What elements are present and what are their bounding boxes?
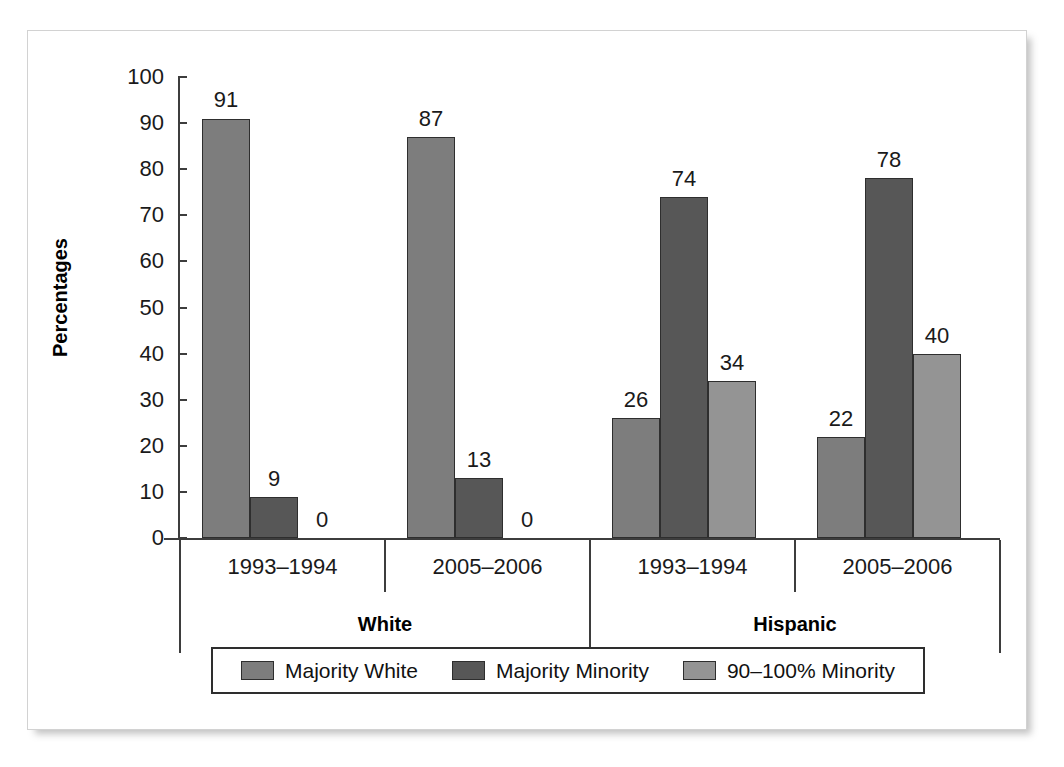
bar-value-label: 40 xyxy=(899,325,975,347)
bar xyxy=(913,354,961,538)
bar-value-label: 34 xyxy=(694,352,770,374)
legend-label: 90–100% Minority xyxy=(727,659,895,683)
category-group-separator xyxy=(179,540,181,653)
legend-swatch-icon xyxy=(452,661,485,680)
category-period-separator xyxy=(794,540,796,592)
category-group-separator xyxy=(589,540,591,653)
y-axis-tick-label: 40 xyxy=(106,343,164,365)
category-group-separator xyxy=(999,540,1001,653)
y-axis-tick-label: 10 xyxy=(106,481,164,503)
bar-chart: Percentages 1009080706050403020100 91908… xyxy=(28,31,1028,731)
category-period-separator xyxy=(384,540,386,592)
y-axis-tick-label: 60 xyxy=(106,250,164,272)
category-period-label: 2005–2006 xyxy=(795,556,1000,578)
legend-label: Majority White xyxy=(285,659,418,683)
category-period-label: 2005–2006 xyxy=(385,556,590,578)
y-axis-title: Percentages xyxy=(49,203,72,393)
category-period-label: 1993–1994 xyxy=(590,556,795,578)
legend-swatch-icon xyxy=(683,661,716,680)
legend-item[interactable]: 90–100% Minority xyxy=(683,659,895,683)
legend-swatch-icon xyxy=(241,661,274,680)
screenshot-page: Percentages 1009080706050403020100 91908… xyxy=(0,0,1064,767)
bar-value-label: 0 xyxy=(284,509,360,531)
y-axis-tick-label: 50 xyxy=(106,297,164,319)
legend-item[interactable]: Majority Minority xyxy=(452,659,649,683)
y-axis-tick-label: 0 xyxy=(106,527,164,549)
bar-value-label: 91 xyxy=(188,89,264,111)
bar xyxy=(612,418,660,538)
bar-value-label: 78 xyxy=(851,149,927,171)
y-axis-tick-label: 80 xyxy=(106,158,164,180)
y-axis-tick-label: 70 xyxy=(106,204,164,226)
category-ethnicity-label: Hispanic xyxy=(590,614,1000,634)
bar xyxy=(817,437,865,538)
category-axis: 1993–19942005–20061993–19942005–2006Whit… xyxy=(180,540,1000,655)
figure-frame: Percentages 1009080706050403020100 91908… xyxy=(27,30,1027,730)
category-ethnicity-label: White xyxy=(180,614,590,634)
bar xyxy=(708,381,756,538)
y-axis-tick-label: 90 xyxy=(106,112,164,134)
bar-value-label: 13 xyxy=(441,449,517,471)
legend-label: Majority Minority xyxy=(496,659,649,683)
y-axis-tick-label: 100 xyxy=(106,66,164,88)
bar-value-label: 74 xyxy=(646,168,722,190)
bar-value-label: 87 xyxy=(393,108,469,130)
bar xyxy=(407,137,455,538)
bar xyxy=(865,178,913,538)
bar-value-label: 9 xyxy=(236,468,312,490)
y-axis-tick-label: 30 xyxy=(106,389,164,411)
plot-area: 919087130267434227840 xyxy=(180,77,1000,538)
legend-item[interactable]: Majority White xyxy=(241,659,418,683)
y-axis-tick-label: 20 xyxy=(106,435,164,457)
chart-legend: Majority WhiteMajority Minority90–100% M… xyxy=(211,647,925,694)
bar-value-label: 0 xyxy=(489,509,565,531)
category-period-label: 1993–1994 xyxy=(180,556,385,578)
